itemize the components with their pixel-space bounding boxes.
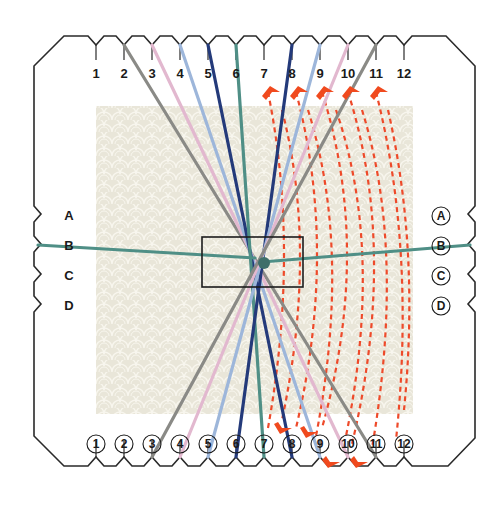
svg-text:3: 3 (148, 66, 155, 81)
svg-text:9: 9 (317, 437, 324, 451)
svg-text:B: B (437, 239, 446, 253)
svg-text:9: 9 (316, 66, 323, 81)
svg-text:10: 10 (341, 437, 355, 451)
svg-text:4: 4 (176, 66, 184, 81)
svg-text:5: 5 (204, 66, 211, 81)
svg-text:7: 7 (260, 66, 267, 81)
svg-text:8: 8 (288, 66, 295, 81)
svg-text:2: 2 (121, 437, 128, 451)
svg-text:8: 8 (289, 437, 296, 451)
svg-text:C: C (437, 269, 446, 283)
svg-text:2: 2 (120, 66, 127, 81)
svg-text:4: 4 (177, 437, 184, 451)
svg-text:12: 12 (397, 437, 411, 451)
svg-text:7: 7 (261, 437, 268, 451)
svg-text:A: A (437, 209, 446, 223)
braiding-diagram: 1 2 3 4 5 6 7 8 9 10 11 12 1 2 3 4 5 6 7… (0, 0, 504, 509)
right-side-labels: A B C D (432, 207, 450, 315)
center-knot (258, 257, 270, 269)
left-side-labels: A B C D (64, 208, 74, 313)
svg-text:5: 5 (205, 437, 212, 451)
svg-text:6: 6 (232, 66, 239, 81)
svg-text:1: 1 (93, 437, 100, 451)
svg-text:10: 10 (341, 66, 355, 81)
svg-text:11: 11 (370, 437, 383, 451)
bottom-slot-ticks (96, 441, 404, 457)
svg-text:D: D (64, 298, 73, 313)
svg-text:B: B (64, 238, 73, 253)
svg-text:3: 3 (149, 437, 156, 451)
svg-text:A: A (64, 208, 74, 223)
svg-text:11: 11 (369, 66, 383, 81)
svg-text:12: 12 (397, 66, 411, 81)
svg-text:6: 6 (233, 437, 240, 451)
top-slot-ticks (96, 45, 404, 60)
svg-text:D: D (437, 299, 446, 313)
svg-text:C: C (64, 268, 74, 283)
svg-text:1: 1 (92, 66, 99, 81)
